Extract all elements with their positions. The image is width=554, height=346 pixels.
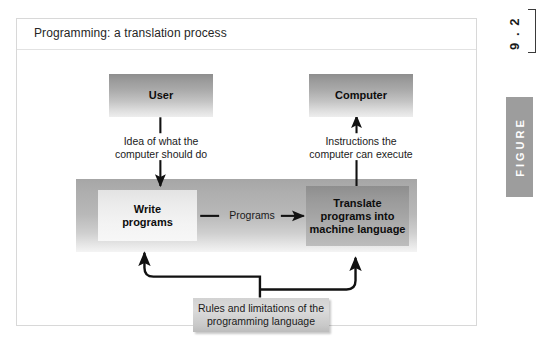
node-write-programs-label: Write programs bbox=[122, 203, 173, 229]
edge-rules-to-translate bbox=[260, 258, 356, 290]
figure-word-tab: FIGURE bbox=[506, 97, 533, 197]
node-rules-limitations: Rules and limitations of the programming… bbox=[193, 298, 329, 332]
figure-number-bracket bbox=[528, 9, 536, 53]
figure-number: 9 . 2 bbox=[504, 6, 524, 60]
figure-number-text: 9 . 2 bbox=[507, 17, 522, 50]
figure-title: Programming: a translation process bbox=[34, 26, 227, 40]
node-user: User bbox=[109, 74, 213, 117]
node-rules-limitations-label: Rules and limitations of the programming… bbox=[198, 302, 324, 328]
node-computer-label: Computer bbox=[335, 89, 387, 102]
node-user-label: User bbox=[149, 89, 173, 102]
diagram-canvas: User Computer Write programs Translate p… bbox=[17, 50, 476, 326]
edge-label-programs: Programs bbox=[214, 209, 290, 222]
node-computer: Computer bbox=[309, 74, 413, 117]
edge-label-idea: Idea of what the computer should do bbox=[91, 135, 231, 160]
node-translate-programs: Translate programs into machine language bbox=[306, 186, 409, 246]
figure-frame: Programming: a translation process bbox=[16, 18, 477, 326]
figure-word-text: FIGURE bbox=[514, 117, 526, 177]
edge-label-instructions: Instructions the computer can execute bbox=[291, 135, 431, 160]
node-write-programs: Write programs bbox=[98, 190, 197, 241]
node-translate-programs-label: Translate programs into machine language bbox=[310, 197, 406, 236]
figure-title-bar: Programming: a translation process bbox=[17, 19, 476, 50]
edge-rules-to-write bbox=[144, 253, 259, 298]
